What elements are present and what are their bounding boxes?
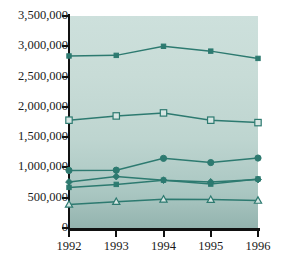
data-point-marker: [66, 117, 72, 123]
y-axis-tick-label: 3,500,000: [18, 9, 68, 22]
data-point-marker: [208, 159, 214, 165]
y-axis-tick-label: 1,500,000: [18, 130, 68, 143]
data-point-marker: [256, 177, 260, 181]
data-point-marker: [66, 167, 72, 173]
data-point-marker: [160, 110, 166, 116]
x-axis-tick: [115, 231, 117, 237]
data-point-marker: [67, 185, 71, 189]
data-point-marker: [114, 182, 118, 186]
data-point-marker: [208, 117, 214, 123]
series-plot: [69, 16, 258, 228]
y-axis-tick-label: 3,000,000: [18, 39, 68, 52]
data-point-marker: [255, 119, 261, 125]
y-axis-tick-label: 2,500,000: [18, 70, 68, 83]
x-axis-tick: [68, 231, 70, 237]
data-point-marker: [113, 167, 119, 173]
data-point-marker: [66, 179, 73, 186]
x-axis-tick-label: 1996: [235, 240, 281, 253]
data-point-marker: [160, 155, 166, 161]
y-axis-tick-label: 1,000,000: [18, 160, 68, 173]
data-point-marker: [209, 49, 213, 53]
data-point-marker: [161, 44, 165, 48]
data-point-marker: [113, 173, 120, 180]
series-1: [67, 44, 260, 61]
data-point-marker: [161, 178, 165, 182]
y-axis-tick-label: 2,000,000: [18, 100, 68, 113]
x-axis-tick-label: 1992: [46, 240, 92, 253]
y-axis-tick-label: 500,000: [27, 191, 68, 204]
data-point-marker: [209, 182, 213, 186]
x-axis-tick-label: 1995: [188, 240, 234, 253]
x-axis-tick: [163, 231, 165, 237]
x-axis-tick-label: 1993: [93, 240, 139, 253]
series-2: [66, 110, 261, 126]
series-3: [66, 155, 261, 174]
series-6: [65, 196, 261, 208]
x-axis-tick-label: 1994: [141, 240, 187, 253]
x-axis-tick: [257, 231, 259, 237]
data-point-marker: [256, 56, 260, 60]
data-point-marker: [255, 155, 261, 161]
data-point-marker: [114, 53, 118, 57]
data-point-marker: [113, 113, 119, 119]
x-axis-tick: [210, 231, 212, 237]
line-chart: 0500,0001,000,0001,500,0002,000,0002,500…: [0, 0, 282, 266]
data-point-marker: [67, 54, 71, 58]
